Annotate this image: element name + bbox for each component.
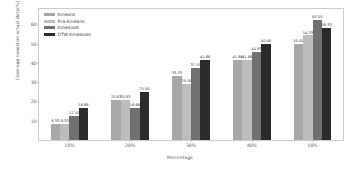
- bar-value-label: 50.00: [261, 39, 271, 43]
- legend-item[interactable]: Kmeans: [44, 12, 91, 17]
- bar-value-label: 45.83: [251, 47, 261, 51]
- y-axis-tick-mark: [37, 82, 39, 83]
- y-axis-tick-mark: [37, 63, 39, 64]
- bar-value-label: 8.33: [61, 119, 69, 123]
- legend-item[interactable]: DTW-Kmedoids: [44, 32, 91, 37]
- bar: 8.33: [60, 124, 69, 140]
- y-axis-tick-label: 40: [31, 60, 37, 65]
- y-axis-tick-label: 30: [31, 80, 37, 85]
- legend-item[interactable]: Kmedoids: [44, 25, 91, 30]
- bar-value-label: 16.66: [78, 103, 88, 107]
- chart-legend: KmeansPca-KmeansKmedoidsDTW-Kmedoids: [44, 12, 91, 37]
- bar-value-label: 20.83: [120, 95, 130, 99]
- y-axis-tick-mark: [37, 120, 39, 121]
- bar-value-label: 33.33: [172, 71, 182, 75]
- bar: 41.66: [200, 60, 209, 140]
- bar: 16.66: [79, 108, 88, 140]
- bar: 41.66: [233, 60, 242, 140]
- bar: 16.66: [130, 108, 139, 140]
- legend-item-label: DTW-Kmedoids: [58, 32, 91, 37]
- bar: 8.33: [51, 124, 60, 140]
- x-axis-tick-mark: [130, 140, 131, 142]
- x-axis-tick-label: 30%: [186, 143, 196, 148]
- legend-swatch-icon: [44, 20, 55, 23]
- x-axis-tick-label: 50%: [307, 143, 317, 148]
- x-axis-tick-mark: [191, 140, 192, 142]
- y-axis-tick-mark: [37, 43, 39, 44]
- bar-value-label: 41.66: [200, 55, 210, 59]
- x-axis-tick-label: 10%: [64, 143, 74, 148]
- x-axis-label: Percentage: [0, 155, 360, 160]
- y-axis-tick-label: 10: [31, 118, 37, 123]
- bar-value-label: 12.50: [69, 111, 79, 115]
- x-axis-tick-mark: [312, 140, 313, 142]
- bar-value-label: 37.50: [191, 63, 201, 67]
- legend-item-label: Kmeans: [58, 12, 76, 17]
- bar: 37.50: [191, 68, 200, 140]
- bar-value-label: 29.16: [181, 79, 191, 83]
- bar: 62.50: [313, 20, 322, 140]
- bar: 33.33: [172, 76, 181, 140]
- legend-item-label: Kmedoids: [58, 25, 80, 30]
- legend-item[interactable]: Pca-Kmeans: [44, 19, 91, 24]
- bar: 58.33: [322, 28, 331, 140]
- bar: 20.83: [111, 100, 120, 140]
- bar-value-label: 25.00: [139, 87, 149, 91]
- bar-value-label: 41.66: [242, 55, 252, 59]
- bar: 50.00: [294, 44, 303, 140]
- legend-swatch-icon: [44, 13, 55, 16]
- chart-figure: Coverage based on actual data(%) Percent…: [0, 0, 360, 172]
- x-axis-tick-mark: [252, 140, 253, 142]
- y-axis-tick-mark: [37, 101, 39, 102]
- x-axis-tick-mark: [69, 140, 70, 142]
- legend-swatch-icon: [44, 26, 55, 29]
- x-axis-tick-label: 20%: [125, 143, 135, 148]
- bar: 54.33: [303, 35, 312, 140]
- bar-value-label: 62.50: [312, 15, 322, 19]
- bar: 41.66: [242, 60, 251, 140]
- bar-value-label: 8.33: [51, 119, 59, 123]
- legend-swatch-icon: [44, 33, 55, 36]
- legend-item-label: Pca-Kmeans: [58, 19, 85, 24]
- x-axis-tick-label: 40%: [247, 143, 257, 148]
- bar-value-label: 58.33: [322, 23, 332, 27]
- bar-value-label: 54.33: [303, 31, 313, 35]
- bar: 12.50: [69, 116, 78, 140]
- bar-value-label: 16.66: [130, 103, 140, 107]
- bar: 29.16: [182, 84, 191, 140]
- y-axis-tick-label: 20: [31, 99, 37, 104]
- bar: 50.00: [261, 44, 270, 140]
- y-axis-tick-label: 60: [31, 22, 37, 27]
- y-axis-tick-mark: [37, 24, 39, 25]
- bar: 25.00: [140, 92, 149, 140]
- bar: 45.83: [252, 52, 261, 140]
- bar-value-label: 50.00: [293, 39, 303, 43]
- y-axis-label: Coverage based on actual data(%): [15, 0, 20, 96]
- y-axis-tick-label: 50: [31, 41, 37, 46]
